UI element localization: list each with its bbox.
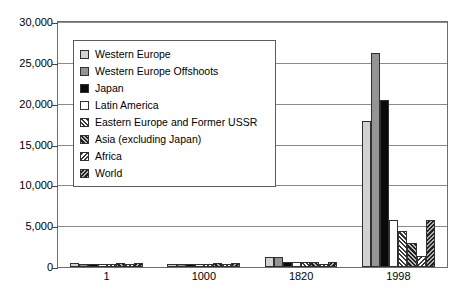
- bar: [301, 262, 310, 267]
- bar-group-1998: [362, 22, 435, 267]
- y-axis: 05,00010,00015,00020,00025,00030,000: [0, 21, 53, 268]
- legend-item-label: Eastern Europe and Former USSR: [95, 117, 257, 128]
- bar: [292, 262, 301, 267]
- bar: [417, 256, 426, 267]
- legend-item-label: World: [95, 168, 122, 179]
- bar: [134, 263, 143, 267]
- legend-swatch-icon: [80, 50, 89, 59]
- legend-swatch-icon: [80, 101, 89, 110]
- bar: [186, 264, 195, 267]
- bar-chart: 05,00010,00015,00020,00025,00030,000 110…: [0, 0, 456, 297]
- legend-item-label: Western Europe Offshoots: [95, 66, 218, 77]
- x-tick-label-1820: 1820: [289, 270, 313, 282]
- x-axis: 1100018201998: [57, 270, 448, 290]
- bar: [274, 257, 283, 267]
- y-tick-label: 20,000: [1, 99, 53, 109]
- bar: [283, 262, 292, 267]
- legend-item[interactable]: Western Europe Offshoots: [80, 63, 275, 80]
- legend-item-label: Latin America: [95, 100, 159, 111]
- y-tick-label: 0: [1, 262, 53, 272]
- bar: [222, 264, 231, 267]
- legend-item[interactable]: Eastern Europe and Former USSR: [80, 114, 275, 131]
- bar: [231, 263, 240, 267]
- bar: [213, 263, 222, 267]
- bar: [79, 264, 88, 267]
- legend-swatch-icon: [80, 84, 89, 93]
- bar: [310, 262, 319, 267]
- bar: [398, 231, 407, 267]
- bar: [265, 257, 274, 267]
- chart-legend: Western EuropeWestern Europe OffshootsJa…: [73, 40, 276, 187]
- legend-item-label: Asia (excluding Japan): [95, 134, 201, 145]
- legend-item[interactable]: Western Europe: [80, 46, 275, 63]
- legend-item[interactable]: Asia (excluding Japan): [80, 131, 275, 148]
- y-tick-mark: [52, 268, 58, 269]
- legend-item-label: Japan: [95, 83, 124, 94]
- legend-item[interactable]: Africa: [80, 148, 275, 165]
- bar: [362, 121, 371, 267]
- legend-item-label: Western Europe: [95, 49, 171, 60]
- bar: [328, 262, 337, 267]
- bar: [107, 264, 116, 267]
- y-tick-label: 25,000: [1, 58, 53, 68]
- bar: [426, 220, 435, 267]
- y-tick-label: 10,000: [1, 180, 53, 190]
- legend-swatch-icon: [80, 118, 89, 127]
- bar: [195, 264, 204, 267]
- x-tick-label-1998: 1998: [386, 270, 410, 282]
- legend-item-label: Africa: [95, 151, 122, 162]
- y-tick-label: 15,000: [1, 140, 53, 150]
- legend-swatch-icon: [80, 169, 89, 178]
- x-tick-label-1: 1: [104, 270, 110, 282]
- legend-swatch-icon: [80, 135, 89, 144]
- y-tick-label: 30,000: [1, 17, 53, 27]
- bar: [380, 100, 389, 267]
- bar: [88, 264, 97, 267]
- legend-item[interactable]: Japan: [80, 80, 275, 97]
- legend-item[interactable]: Latin America: [80, 97, 275, 114]
- bar: [389, 220, 398, 267]
- bar: [98, 264, 107, 267]
- legend-swatch-icon: [80, 67, 89, 76]
- bar: [125, 264, 134, 267]
- bar: [177, 264, 186, 267]
- bar: [407, 243, 416, 267]
- bar: [167, 264, 176, 267]
- bar: [204, 264, 213, 267]
- bar: [371, 53, 380, 267]
- x-tick-label-1000: 1000: [192, 270, 216, 282]
- bar: [70, 263, 79, 267]
- legend-swatch-icon: [80, 152, 89, 161]
- bar: [319, 264, 328, 267]
- legend-item[interactable]: World: [80, 165, 275, 182]
- bar: [116, 263, 125, 267]
- y-tick-label: 5,000: [1, 221, 53, 231]
